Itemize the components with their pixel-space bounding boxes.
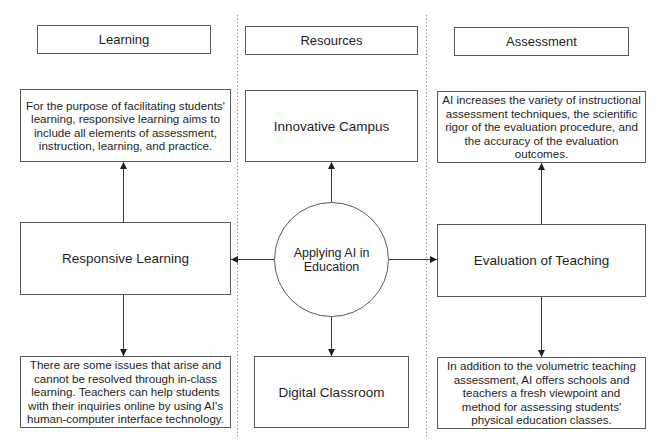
learning-top-description: For the purpose of facilitating students… bbox=[20, 89, 231, 162]
evaluation-of-teaching-label: Evaluation of Teaching bbox=[474, 253, 610, 268]
learning-bottom-text: There are some issues that arise and can… bbox=[25, 358, 226, 425]
assessment-bottom-description: In addition to the volumetric teaching a… bbox=[437, 357, 646, 429]
header-resources-label: Resources bbox=[300, 33, 362, 48]
responsive-learning-box: Responsive Learning bbox=[20, 222, 231, 295]
diagram-canvas: Learning Resources Assessment For the pu… bbox=[0, 0, 664, 446]
assessment-top-description: AI increases the variety of instructiona… bbox=[437, 91, 646, 163]
header-resources: Resources bbox=[245, 26, 418, 55]
header-assessment: Assessment bbox=[454, 27, 629, 56]
header-assessment-label: Assessment bbox=[506, 34, 577, 49]
assessment-top-text: AI increases the variety of instructiona… bbox=[442, 93, 641, 160]
innovative-campus-box: Innovative Campus bbox=[245, 90, 418, 162]
header-learning-label: Learning bbox=[99, 32, 150, 47]
responsive-learning-label: Responsive Learning bbox=[62, 251, 189, 266]
header-learning: Learning bbox=[37, 25, 211, 54]
digital-classroom-box: Digital Classroom bbox=[254, 356, 409, 428]
learning-top-text: For the purpose of facilitating students… bbox=[25, 99, 226, 153]
learning-bottom-description: There are some issues that arise and can… bbox=[20, 356, 231, 428]
assessment-bottom-text: In addition to the volumetric teaching a… bbox=[442, 359, 641, 426]
applying-ai-circle: Applying AI in Education bbox=[274, 202, 389, 317]
innovative-campus-label: Innovative Campus bbox=[274, 119, 390, 134]
digital-classroom-label: Digital Classroom bbox=[279, 385, 385, 400]
applying-ai-label: Applying AI in Education bbox=[290, 246, 374, 274]
evaluation-of-teaching-box: Evaluation of Teaching bbox=[437, 224, 646, 297]
